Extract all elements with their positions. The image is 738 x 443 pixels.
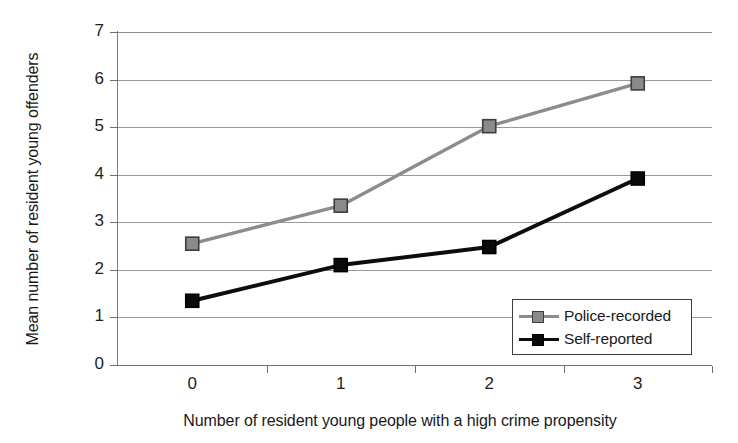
x-tick-mark [415,366,416,373]
y-tick-label: 4 [78,164,104,184]
chart-figure: Mean number of resident young offenders … [0,0,738,443]
gridline [118,80,712,81]
y-tick-mark [110,222,118,223]
y-axis-title: Mean number of resident young offenders [24,19,42,379]
legend-label-police-recorded: Police-recorded [564,307,671,325]
y-tick-mark [110,317,118,318]
y-tick-label: 6 [78,69,104,89]
y-tick-label: 5 [78,116,104,136]
gridline [118,222,712,223]
chart-legend: Police-recorded Self-reported [512,299,692,355]
x-tick-label: 3 [623,374,653,394]
gridline [118,32,712,33]
legend-item-self-reported: Self-reported [519,327,691,350]
y-tick-label: 0 [78,354,104,374]
y-tick-mark [110,365,118,366]
legend-marker-self-reported-icon [519,331,559,347]
x-tick-label: 2 [474,374,504,394]
y-tick-label: 3 [78,211,104,231]
x-tick-mark [712,366,713,373]
y-tick-mark [110,175,118,176]
gridline [118,175,712,176]
x-tick-label: 0 [177,374,207,394]
gridline [118,270,712,271]
x-tick-mark [267,366,268,373]
y-tick-label: 1 [78,306,104,326]
y-tick-mark [110,32,118,33]
y-tick-label: 7 [78,21,104,41]
x-tick-mark [564,366,565,373]
y-tick-label: 2 [78,259,104,279]
legend-item-police-recorded: Police-recorded [519,304,691,327]
y-tick-mark [110,80,118,81]
y-tick-mark [110,127,118,128]
x-axis-title: Number of resident young people with a h… [80,412,720,430]
gridline [118,127,712,128]
x-tick-label: 1 [326,374,356,394]
legend-label-self-reported: Self-reported [564,330,652,348]
y-tick-mark [110,270,118,271]
legend-marker-police-recorded-icon [519,308,559,324]
